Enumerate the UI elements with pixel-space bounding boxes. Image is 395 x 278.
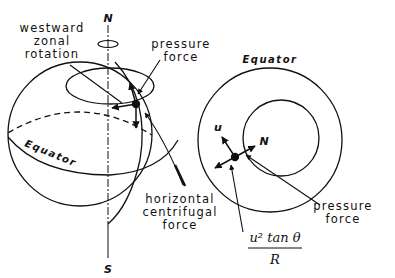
inner-circle [243,100,319,176]
formula-numerator: u² tan θ [249,230,300,245]
south-label: S [104,263,112,276]
pressure-label-right-1: pressure [313,199,372,213]
equator-label-left: Equator [23,138,78,169]
meridian-line [108,62,142,224]
latitude-circle [66,68,154,104]
pressure-label-2: force [164,50,199,64]
equator-label-right: Equator [243,54,298,65]
n-label: N [259,135,268,148]
formula-denominator: R [269,252,280,267]
north-label: N [103,12,112,25]
rotation-label-1: westward [20,21,85,35]
back-latitude [8,112,152,135]
centrifugal-label-1: horizontal [145,192,214,206]
centrifugal-label-3: force [163,218,198,232]
pressure-label-1: pressure [151,37,210,51]
rotation-label-3: rotation [25,47,80,61]
outer-circle [198,68,342,212]
u-label: u [214,121,222,134]
centrifugal-label-2: centrifugal [142,205,217,219]
diagram-canvas: N S westward zonal rotation pressure for… [0,0,395,278]
pressure-label-right-2: force [326,212,361,226]
rotation-label-2: zonal [34,34,71,48]
